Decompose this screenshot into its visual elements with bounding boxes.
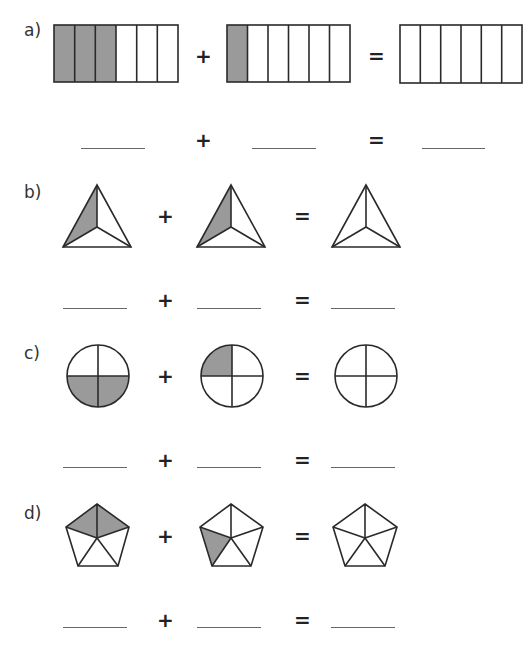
circle-figure-c2: [201, 345, 263, 407]
plus-sign: +: [195, 46, 212, 66]
equals-sign: =: [294, 526, 311, 546]
triangle-figure-b2: [197, 185, 265, 247]
plus-sign: +: [157, 290, 174, 310]
pentagon-figure-d3: [333, 504, 397, 566]
pentagon-figure-d2: [200, 504, 263, 566]
plus-sign: +: [157, 206, 174, 226]
plus-sign: +: [157, 450, 174, 470]
equals-sign: =: [294, 206, 311, 226]
answer-blank-b2[interactable]: [197, 308, 261, 309]
circle-figure-c1: [67, 345, 129, 407]
answer-blank-c2[interactable]: [197, 467, 261, 468]
answer-blank-b3[interactable]: [331, 308, 395, 309]
rectangle-figure-a2: [227, 25, 350, 82]
answer-blank-c3[interactable]: [331, 467, 395, 468]
equals-sign: =: [294, 290, 311, 310]
answer-blank-d3[interactable]: [331, 627, 395, 628]
rectangle-figure-a3: [400, 25, 522, 83]
equals-sign: =: [368, 130, 385, 150]
plus-sign: +: [157, 366, 174, 386]
triangle-figure-b1: [63, 185, 131, 247]
answer-blank-a3[interactable]: [422, 148, 485, 149]
circle-figure-c3: [335, 345, 397, 407]
rectangle-figure-a1: [54, 25, 178, 82]
plus-sign: +: [157, 610, 174, 630]
answer-blank-d1[interactable]: [63, 627, 127, 628]
answer-blank-b1[interactable]: [63, 308, 127, 309]
plus-sign: +: [195, 130, 212, 150]
equals-sign: =: [294, 366, 311, 386]
pentagon-figure-d1: [66, 504, 129, 566]
answer-blank-a1[interactable]: [81, 148, 145, 149]
plus-sign: +: [157, 526, 174, 546]
triangle-figure-b3: [332, 185, 400, 247]
answer-blank-a2[interactable]: [252, 148, 316, 149]
fraction-figures: [0, 0, 529, 649]
equals-sign: =: [368, 46, 385, 66]
equals-sign: =: [294, 450, 311, 470]
equals-sign: =: [294, 610, 311, 630]
answer-blank-d2[interactable]: [197, 627, 261, 628]
answer-blank-c1[interactable]: [63, 467, 127, 468]
